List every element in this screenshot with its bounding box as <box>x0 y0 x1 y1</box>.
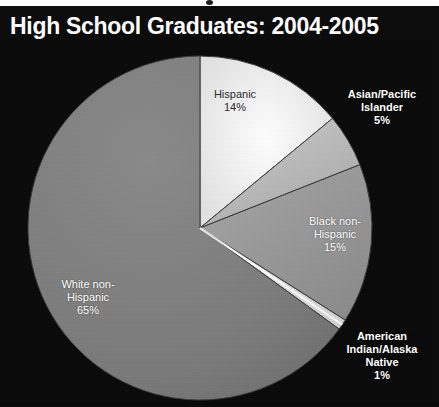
slice-label-aian-line1: American <box>330 330 434 343</box>
slice-label-aian-line3: Native <box>330 356 434 369</box>
slice-label-american-indian-alaska-native: American Indian/Alaska Native 1% <box>330 330 434 382</box>
slice-label-white-line1: White non- <box>36 278 140 291</box>
slice-label-hispanic-name: Hispanic <box>196 88 274 101</box>
slice-label-asian-pacific-islander: Asian/Pacific Islander 5% <box>334 88 430 127</box>
slice-label-hispanic-value: 14% <box>196 101 274 114</box>
slice-label-white-non-hispanic: White non- Hispanic 65% <box>36 278 140 317</box>
slice-label-asian-value: 5% <box>334 114 430 127</box>
chart-screenshot: High School Graduates: 2004-2005 <box>0 0 439 407</box>
slice-label-black-value: 15% <box>290 241 380 254</box>
slice-label-hispanic: Hispanic 14% <box>196 88 274 114</box>
slice-label-aian-line2: Indian/Alaska <box>330 343 434 356</box>
slice-label-asian-line1: Asian/Pacific <box>334 88 430 101</box>
slice-label-black-line2: Hispanic <box>290 228 380 241</box>
slice-label-aian-value: 1% <box>330 369 434 382</box>
pie-chart: Hispanic 14% Asian/Pacific Islander 5% B… <box>0 0 439 407</box>
slice-label-white-value: 65% <box>36 304 140 317</box>
slice-label-black-line1: Black non- <box>290 215 380 228</box>
slice-label-asian-line2: Islander <box>334 101 430 114</box>
slice-label-black-non-hispanic: Black non- Hispanic 15% <box>290 215 380 254</box>
slice-label-white-line2: Hispanic <box>36 291 140 304</box>
